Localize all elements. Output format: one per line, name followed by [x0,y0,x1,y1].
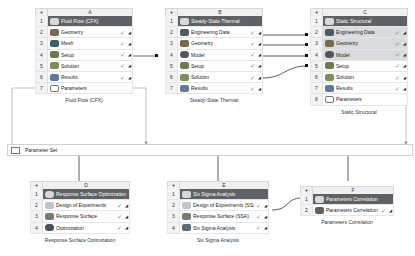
cell-setup[interactable]: 4Setup✓◢ [35,50,133,61]
connector-corner-icon[interactable]: ◢ [256,52,262,57]
cell-title[interactable]: 1Response Surface Optimization [30,189,130,200]
cell-solution[interactable]: 5Solution✓◢ [35,61,133,72]
connector-corner-icon[interactable]: ◢ [401,30,407,35]
connector-corner-icon[interactable]: ◢ [256,30,262,35]
cell-title[interactable]: 1Six Sigma Analysis [167,189,269,200]
connector-corner-icon[interactable]: ◢ [401,86,407,91]
connector-corner-icon[interactable]: ◢ [126,63,132,68]
cell-response-surface-ssa[interactable]: 3Response Surface (SSA)✓◢ [167,211,269,222]
connector-corner-icon[interactable]: ◢ [401,52,407,57]
cell-results[interactable]: 6Results✓◢ [35,72,133,83]
system-b-steady-state-thermal[interactable]: ▼ B 1Steady-State Thermal 2Engineering D… [165,8,263,103]
connector-corner-icon[interactable]: ◢ [123,225,129,230]
connector-corner-icon[interactable]: ◢ [401,41,407,46]
connector-corner-icon[interactable]: ◢ [126,41,132,46]
cell-engineering-data[interactable]: 2Engineering Data✓◢ [165,27,263,38]
cell-response-surface[interactable]: 3Response Surface✓◢ [30,211,130,222]
checkmark-icon: ✓ [393,85,401,92]
cell-mesh[interactable]: 3Mesh✓◢ [35,38,133,49]
connector-corner-icon[interactable]: ◢ [262,203,268,208]
system-caption[interactable]: Static Structural [310,109,408,115]
connector-corner-icon[interactable]: ◢ [401,63,407,68]
cell-label: Six Sigma Analysis [193,191,268,197]
cell-solution[interactable]: 6Solution✓◢ [310,72,408,83]
connector-corner-icon[interactable]: ◢ [256,86,262,91]
cell-results[interactable]: 7Results✓◢ [310,83,408,94]
cell-geometry[interactable]: 3Geometry✓◢ [310,38,408,49]
connector-corner-icon[interactable]: ◢ [126,52,132,57]
row-number: 5 [311,61,323,71]
collapse-toggle[interactable]: ▼ [166,9,178,16]
system-header[interactable]: ▼ F [300,186,394,194]
cell-geometry[interactable]: 2Geometry✓◢ [35,27,133,38]
connector-corner-icon[interactable]: ◢ [123,214,129,219]
cell-optimization[interactable]: 4Optimization✓◢ [30,223,130,234]
cell-design-of-experiments-ssa[interactable]: 2Design of Experiments (SSA)✓◢ [167,200,269,211]
cell-setup[interactable]: 5Setup✓◢ [310,61,408,72]
system-caption[interactable]: Response Surface Optimization [30,237,130,243]
system-caption[interactable]: Fluid Flow (CFX) [35,97,133,103]
connector-corner-icon[interactable]: ◢ [126,30,132,35]
system-caption[interactable]: Parameters Correlation [300,219,394,225]
connector-corner-icon[interactable]: ◢ [262,225,268,230]
checkmark-icon: ✓ [118,62,126,69]
system-header[interactable]: ▼ B [165,8,263,16]
system-header[interactable]: ▼ D [30,181,130,189]
fluid-flow-icon [50,18,59,25]
collapse-toggle[interactable]: ▼ [311,9,323,16]
collapse-toggle[interactable]: ▼ [301,187,313,194]
connector-corner-icon[interactable]: ◢ [126,75,132,80]
system-c-static-structural[interactable]: ▼ C 1Static Structural 2Engineering Data… [310,8,408,115]
cell-label: Six Sigma Analysis [193,225,254,231]
cell-label: Setup [191,63,248,69]
parameters-icon [50,85,59,92]
collapse-toggle[interactable]: ▼ [36,9,48,16]
parameter-set-bar[interactable]: Parameter Set [7,144,413,156]
doe-icon [45,202,54,209]
cell-model[interactable]: 4Model✓◢ [310,50,408,61]
connector-corner-icon[interactable]: ◢ [123,203,129,208]
cell-parameters[interactable]: 7Parameters [35,83,133,94]
cell-six-sigma-analysis[interactable]: 4Six Sigma Analysis✓◢ [167,223,269,234]
system-header[interactable]: ▼ A [35,8,133,16]
system-f-parameters-correlation[interactable]: ▼ F 1Parameters Correlation 2Parameters … [300,186,394,225]
cell-results[interactable]: 7Results✓◢ [165,83,263,94]
row-number: 3 [311,38,323,48]
system-caption[interactable]: Six Sigma Analysis [167,237,269,243]
cell-title[interactable]: 1Parameters Correlation [300,194,394,205]
cell-setup[interactable]: 5Setup✓◢ [165,61,263,72]
checkmark-icon: ✓ [118,29,126,36]
connector-corner-icon[interactable]: ◢ [262,214,268,219]
cell-design-of-experiments[interactable]: 2Design of Experiments✓◢ [30,200,130,211]
system-d-response-surface-optimization[interactable]: ▼ D 1Response Surface Optimization 2Desi… [30,181,130,243]
row-number: 4 [311,50,323,60]
cell-label: Optimization [56,225,115,231]
system-e-six-sigma-analysis[interactable]: ▼ E 1Six Sigma Analysis 2Design of Exper… [167,181,269,243]
row-number: 8 [311,94,323,104]
cell-engineering-data[interactable]: 2Engineering Data✓◢ [310,27,408,38]
collapse-toggle[interactable]: ▼ [31,182,43,189]
connector-corner-icon[interactable]: ◢ [256,63,262,68]
connector-corner-icon[interactable]: ◢ [387,208,393,213]
cell-model[interactable]: 4Model✓◢ [165,50,263,61]
system-header[interactable]: ▼ C [310,8,408,16]
checkmark-icon: ✓ [248,62,256,69]
collapse-toggle[interactable]: ▼ [168,182,180,189]
cell-title[interactable]: 1Steady-State Thermal [165,16,263,27]
cell-title[interactable]: 1Static Structural [310,16,408,27]
cell-parameters[interactable]: 8Parameters [310,94,408,105]
system-caption[interactable]: Steady-State Thermal [165,97,263,103]
parameters-correlation-icon [315,207,324,214]
system-header[interactable]: ▼ E [167,181,269,189]
row-number: 6 [36,72,48,82]
connector-corner-icon[interactable]: ◢ [256,75,262,80]
connector-corner-icon[interactable]: ◢ [401,75,407,80]
cell-parameters-correlation[interactable]: 2Parameters Correlation✓◢ [300,205,394,216]
cell-geometry[interactable]: 3Geometry✓◢ [165,38,263,49]
cell-solution[interactable]: 6Solution✓◢ [165,72,263,83]
connector-corner-icon[interactable]: ◢ [256,41,262,46]
cell-title[interactable]: 1Fluid Flow (CFX) [35,16,133,27]
engineering-data-icon [180,29,189,36]
system-a-fluid-flow[interactable]: ▼ A 1Fluid Flow (CFX) 2Geometry✓◢ 3Mesh✓… [35,8,133,103]
checkmark-icon: ✓ [115,224,123,231]
